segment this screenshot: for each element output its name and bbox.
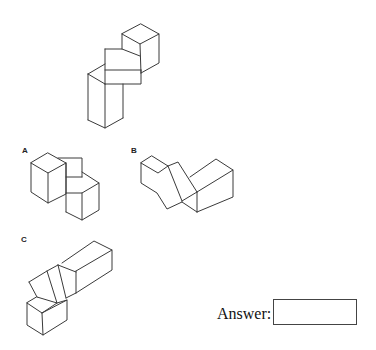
answer-input-box[interactable] [273,299,357,325]
puzzle-page: A B C [0,0,376,350]
option-c-figure[interactable] [0,0,376,350]
answer-label: Answer: [217,305,271,323]
